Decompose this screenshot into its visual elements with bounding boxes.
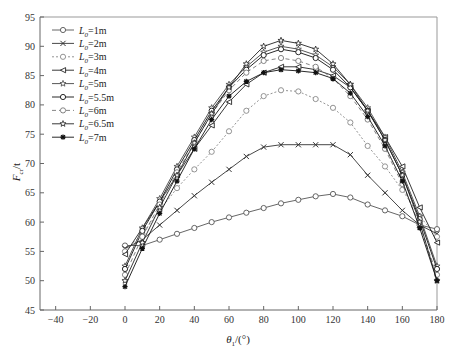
asterisk-marker-icon: [192, 146, 197, 151]
circle-marker-icon: [313, 96, 318, 101]
circle-marker-icon: [174, 231, 179, 236]
circle-marker-icon: [157, 237, 162, 242]
series-l07m: [122, 67, 439, 289]
circle-marker-icon: [209, 149, 214, 154]
circle-marker-icon: [330, 191, 335, 196]
asterisk-marker-icon: [261, 70, 266, 75]
asterisk-marker-icon: [60, 135, 65, 140]
x-marker-icon: [348, 152, 353, 157]
x-marker-icon: [382, 190, 387, 195]
star-marker-icon: [60, 121, 66, 127]
data-series: [122, 37, 440, 289]
y-tick-label: 50: [25, 275, 35, 286]
circle-marker-icon: [330, 67, 335, 72]
circle-marker-icon: [400, 214, 405, 219]
circle-marker-icon: [60, 108, 65, 113]
x-tick-label: −40: [48, 314, 64, 325]
legend: L0=1mL0=2mL0=3mL0=4mL0=5mL0=5.5mL0=6mL0=…: [52, 25, 114, 146]
x-tick-label: 160: [395, 314, 410, 325]
y-tick-label: 55: [25, 246, 35, 257]
circle-marker-icon: [192, 225, 197, 230]
circle-marker-icon: [244, 70, 249, 75]
legend-label: L0=1m: [78, 25, 107, 39]
legend-label: L0=6.5m: [78, 118, 114, 132]
x-tick-label: 180: [430, 314, 445, 325]
legend-item: L0=3m: [52, 51, 107, 65]
legend-label: L0=5m: [78, 78, 107, 92]
x-marker-icon: [365, 173, 370, 178]
series-line: [125, 67, 437, 255]
triangle-marker-icon: [417, 205, 422, 210]
circle-marker-icon: [296, 89, 301, 94]
circle-marker-icon: [278, 47, 283, 52]
circle-marker-icon: [278, 201, 283, 206]
circle-marker-icon: [244, 210, 249, 215]
legend-item: L0=5.5m: [52, 92, 114, 106]
x-marker-icon: [244, 154, 249, 159]
asterisk-marker-icon: [365, 114, 370, 119]
circle-marker-icon: [192, 167, 197, 172]
asterisk-marker-icon: [140, 246, 145, 251]
asterisk-marker-icon: [400, 178, 405, 183]
circle-marker-icon: [278, 88, 283, 93]
asterisk-marker-icon: [382, 143, 387, 148]
asterisk-marker-icon: [434, 278, 439, 283]
legend-item: L0=1m: [52, 25, 107, 39]
x-marker-icon: [157, 222, 162, 227]
x-tick-label: 60: [224, 314, 234, 325]
x-marker-icon: [226, 167, 231, 172]
circle-marker-icon: [174, 186, 179, 191]
circle-marker-icon: [278, 55, 283, 60]
circle-marker-icon: [209, 220, 214, 225]
x-axis-label: θ1/(°): [226, 333, 250, 348]
circle-marker-icon: [244, 108, 249, 113]
asterisk-marker-icon: [417, 225, 422, 230]
series-line: [125, 90, 437, 251]
legend-label: L0=6m: [78, 105, 107, 119]
series-l02m: [122, 142, 439, 251]
series-line: [125, 145, 437, 249]
x-marker-icon: [192, 193, 197, 198]
triangle-marker-icon: [60, 68, 65, 73]
asterisk-marker-icon: [226, 94, 231, 99]
y-tick-label: 95: [25, 12, 35, 23]
x-tick-label: 140: [360, 314, 375, 325]
y-tick-label: 85: [25, 70, 35, 81]
star-marker-icon: [278, 37, 284, 43]
circle-marker-icon: [348, 195, 353, 200]
svg-text:θ1/(°): θ1/(°): [226, 333, 250, 348]
legend-item: L0=6.5m: [52, 118, 114, 132]
legend-label: L0=7m: [78, 132, 107, 146]
legend-label: L0=2m: [78, 38, 107, 52]
legend-label: L0=5.5m: [78, 92, 114, 106]
legend-label: L0=3m: [78, 51, 107, 65]
x-marker-icon: [209, 180, 214, 185]
circle-marker-icon: [365, 143, 370, 148]
y-tick-label: 45: [25, 305, 35, 316]
x-tick-label: −20: [83, 314, 99, 325]
circle-marker-icon: [140, 228, 145, 233]
circle-marker-icon: [348, 120, 353, 125]
y-tick-label: 70: [25, 158, 35, 169]
x-ticks: −40−20020406080100120140160180: [48, 306, 445, 325]
series-line: [125, 40, 437, 280]
circle-marker-icon: [60, 27, 65, 32]
x-tick-label: 120: [326, 314, 341, 325]
asterisk-marker-icon: [122, 284, 127, 289]
x-tick-label: 0: [123, 314, 128, 325]
y-tick-label: 80: [25, 99, 35, 110]
circle-marker-icon: [382, 208, 387, 213]
circle-marker-icon: [296, 50, 301, 55]
x-marker-icon: [400, 208, 405, 213]
circle-marker-icon: [313, 55, 318, 60]
asterisk-marker-icon: [244, 79, 249, 84]
y-tick-label: 65: [25, 187, 35, 198]
circle-marker-icon: [313, 194, 318, 199]
circle-marker-icon: [365, 202, 370, 207]
legend-item: L0=6m: [52, 105, 107, 119]
circle-marker-icon: [261, 52, 266, 57]
circle-marker-icon: [434, 266, 439, 271]
y-tick-label: 60: [25, 217, 35, 228]
legend-item: L0=2m: [52, 38, 107, 52]
circle-marker-icon: [226, 215, 231, 220]
